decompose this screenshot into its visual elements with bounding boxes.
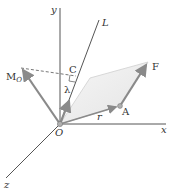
right-angle-marker [69,75,75,82]
origin-dot [57,121,62,126]
projection-dashed-line [21,68,76,76]
moment-label-subscript: O [16,76,22,84]
line-l-label: L [101,17,109,28]
y-axis-label: y [50,4,57,15]
point-a-label: A [121,106,130,117]
x-axis-label: x [161,124,167,135]
moment-label-main: M [6,71,16,82]
point-c-label: C [69,64,77,75]
z-axis [6,124,60,178]
r-label: r [97,111,103,122]
lambda-label: λ [64,84,71,95]
z-axis-label: z [3,179,10,190]
moment-vector-mo [23,70,60,124]
origin-label: O [55,127,63,138]
force-label: F [152,61,159,72]
moment-label: MO [6,71,22,84]
moment-about-axis-diagram: y x z L MO C λ F A r O [0,0,173,191]
